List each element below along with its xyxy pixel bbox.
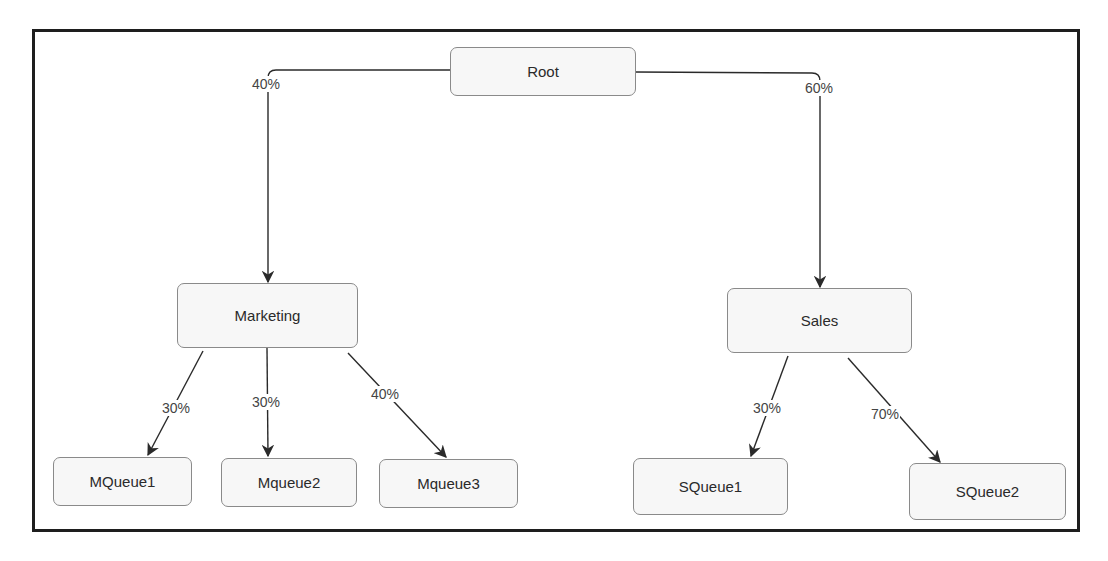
edge-label-root-marketing: 40% — [251, 76, 281, 92]
edge-label-marketing-mqueue1: 30% — [161, 400, 191, 416]
edge-label-sales-squeue2: 70% — [870, 406, 900, 422]
edge-label-root-sales: 60% — [804, 80, 834, 96]
edge-root-sales — [635, 72, 820, 287]
node-sales-label: Sales — [801, 312, 839, 329]
node-mqueue3[interactable]: Mqueue3 — [379, 459, 518, 508]
node-squeue1[interactable]: SQueue1 — [633, 458, 788, 515]
node-root-label: Root — [527, 63, 559, 80]
node-root[interactable]: Root — [450, 47, 636, 96]
node-marketing-label: Marketing — [235, 307, 301, 324]
edge-marketing-mqueue3 — [348, 353, 446, 457]
node-marketing[interactable]: Marketing — [177, 283, 358, 348]
node-mqueue2[interactable]: Mqueue2 — [221, 458, 357, 507]
node-mqueue1[interactable]: MQueue1 — [53, 457, 192, 506]
node-mqueue3-label: Mqueue3 — [417, 475, 480, 492]
node-squeue2-label: SQueue2 — [956, 483, 1019, 500]
edge-root-marketing — [268, 70, 450, 282]
node-sales[interactable]: Sales — [727, 288, 912, 353]
edge-label-marketing-mqueue2: 30% — [251, 394, 281, 410]
node-squeue2[interactable]: SQueue2 — [909, 463, 1066, 520]
node-mqueue2-label: Mqueue2 — [258, 474, 321, 491]
edge-label-marketing-mqueue3: 40% — [370, 386, 400, 402]
node-mqueue1-label: MQueue1 — [90, 473, 156, 490]
edge-label-sales-squeue1: 30% — [752, 400, 782, 416]
node-squeue1-label: SQueue1 — [679, 478, 742, 495]
